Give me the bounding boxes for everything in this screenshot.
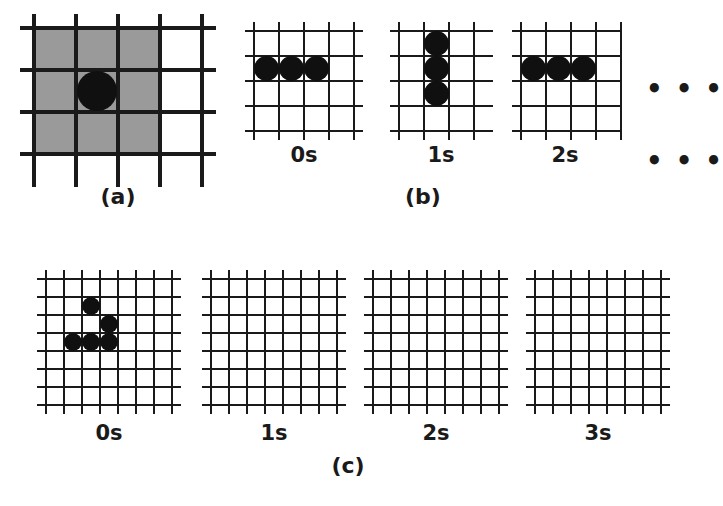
panel-b-ellipsis-right: • • • bbox=[646, 76, 723, 102]
panel-b-frame-1-time: 1s bbox=[381, 145, 501, 166]
panel-c-frame-2-time: 2s bbox=[376, 423, 496, 444]
panel-b-frame-1-grid bbox=[390, 22, 493, 140]
panel-c-label: (c) bbox=[288, 455, 408, 477]
panel-c-frame-2-svg bbox=[362, 268, 510, 416]
panel-b-frame-0-grid bbox=[245, 22, 363, 140]
panel-b-ellipsis-bottom: • • • bbox=[646, 148, 723, 174]
panel-b-frame-2-grid bbox=[512, 22, 622, 140]
panel-b-frame-0-time: 0s bbox=[244, 145, 364, 166]
panel-c-frame-1-time: 1s bbox=[214, 423, 334, 444]
panel-a-grid bbox=[18, 12, 218, 187]
panel-c-frame-0-svg bbox=[35, 268, 183, 416]
panel-b-label: (b) bbox=[363, 186, 483, 208]
panel-c-frame-1-svg bbox=[200, 268, 348, 416]
panel-b-frame-0-svg bbox=[245, 22, 363, 140]
panel-c-frame-0-grid bbox=[35, 268, 183, 416]
panel-c-frame-3-svg bbox=[524, 268, 672, 416]
panel-a-svg bbox=[18, 12, 218, 187]
panel-c-frame-3-time: 3s bbox=[538, 423, 658, 444]
panel-c-frame-2-grid bbox=[362, 268, 510, 416]
panel-c-frame-0-time: 0s bbox=[49, 423, 169, 444]
panel-c-frame-3-grid bbox=[524, 268, 672, 416]
panel-b-frame-1-svg bbox=[390, 22, 493, 140]
panel-c-frame-1-grid bbox=[200, 268, 348, 416]
panel-b-frame-2-svg bbox=[512, 22, 622, 140]
panel-b-frame-2-time: 2s bbox=[505, 145, 625, 166]
panel-a-label: (a) bbox=[58, 186, 178, 208]
